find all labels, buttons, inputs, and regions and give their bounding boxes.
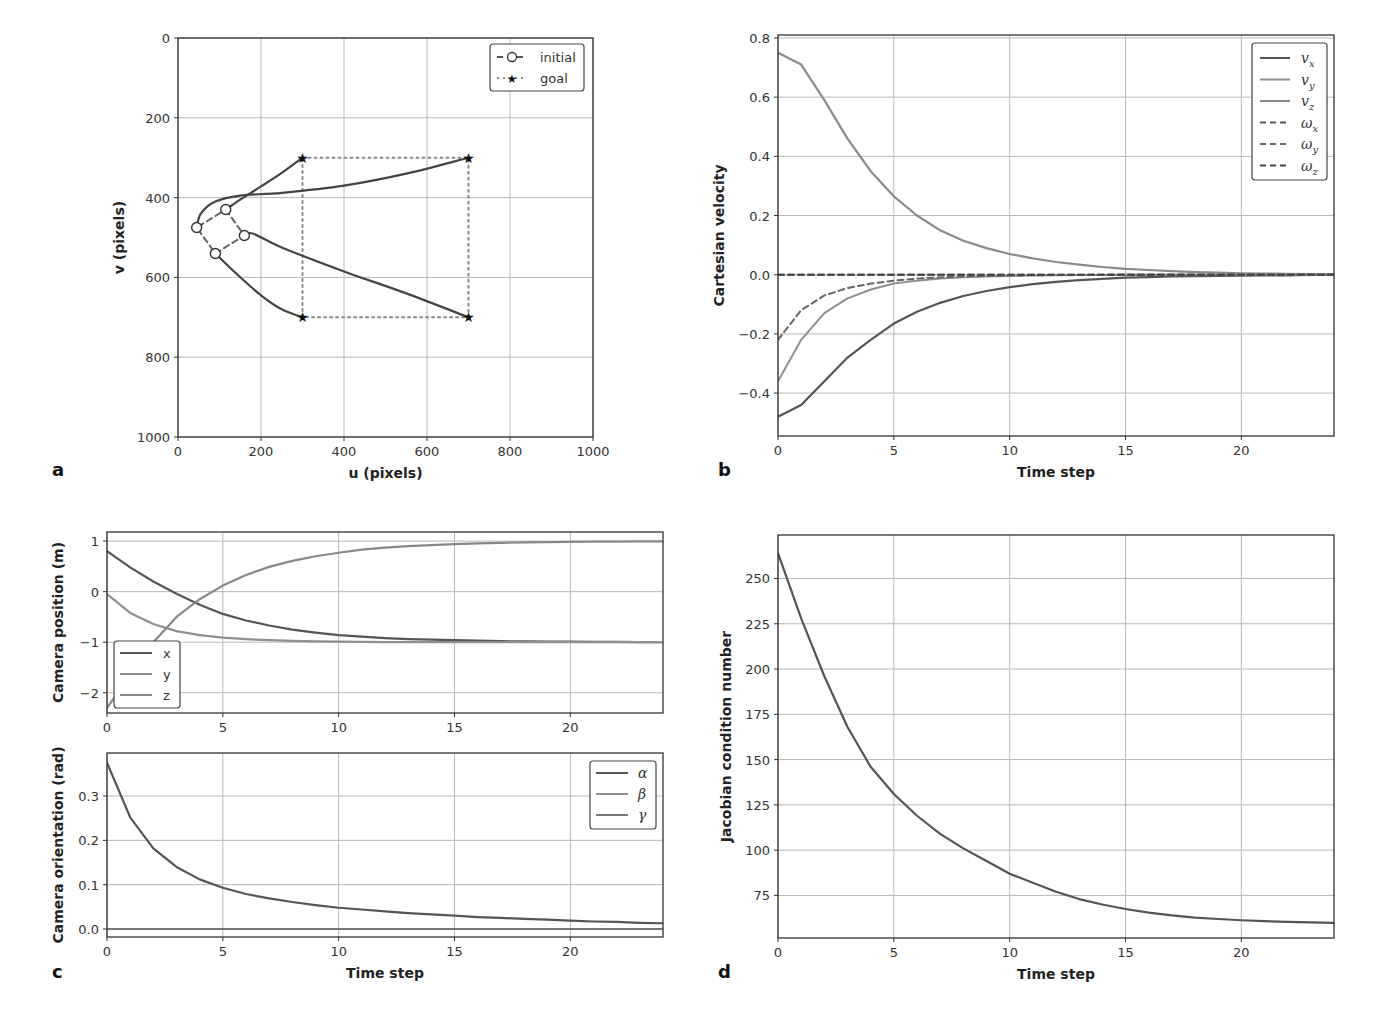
y-tick-label: 150 [745,753,770,768]
y-tick-label: 0.4 [749,149,770,164]
x-tick-label: 10 [330,944,347,959]
x-tick-label: 15 [1117,443,1134,458]
initial-point-marker [221,205,231,215]
panel-b-velocity-plot: 05101520−0.4−0.20.00.20.40.60.8Time step… [711,31,1334,480]
feature-trajectory [244,233,468,317]
y-tick-label: 0 [91,585,99,600]
plot-frame [107,753,663,937]
y-tick-label: 100 [745,843,770,858]
y-tick-label: 1 [91,534,99,549]
feature-trajectory [215,253,302,317]
panel-letter-b: b [718,459,731,480]
legend-label: β [637,786,646,802]
x-tick-label: 0 [103,944,111,959]
y-tick-label: 600 [145,270,170,285]
series-line [778,275,1334,340]
legend-label: z [163,688,170,703]
x-tick-label: 20 [1233,443,1250,458]
x-tick-label: 1000 [576,444,609,459]
x-axis-label: Time step [346,965,424,981]
panel-a-trajectory-plot: 0200400600800100002004006008001000u (pix… [111,31,610,481]
series-line [778,275,1334,382]
legend-label-goal: goal [540,71,568,86]
y-tick-label: 800 [145,350,170,365]
plot-frame [778,35,1334,436]
x-axis-label: Time step [1017,464,1095,480]
x-tick-label: 0 [103,720,111,735]
y-tick-label: 200 [145,111,170,126]
series-line [107,551,663,642]
y-tick-label: 0.6 [749,90,770,105]
goal-star-icon: ★ [296,309,309,325]
goal-star-icon: ★ [462,150,475,166]
panel-letter-c: c [52,961,63,982]
y-tick-label: 0.3 [78,789,99,804]
legend-label: α [638,765,648,781]
y-axis-label: Jacobian condition number [718,631,734,843]
series-line [107,541,663,708]
feature-trajectory [226,158,303,210]
x-tick-label: 200 [249,444,274,459]
y-axis-label: Camera orientation (rad) [50,746,66,943]
y-tick-label: −0.4 [738,386,770,401]
x-tick-label: 20 [562,944,579,959]
x-tick-label: 10 [1001,945,1018,960]
y-tick-label: 200 [745,662,770,677]
x-tick-label: 0 [174,444,182,459]
plot-frame [778,535,1334,938]
y-tick-label: 0 [162,31,170,46]
x-tick-label: 5 [219,944,227,959]
legend-goal-star-icon: ★ [507,72,518,86]
legend-label-initial: initial [540,50,576,65]
initial-point-marker [192,223,202,233]
y-tick-label: 1000 [137,430,170,445]
feature-trajectory [197,158,469,228]
panel-letter-d: d [718,961,731,982]
y-axis-label: v (pixels) [111,201,127,274]
y-tick-label: 175 [745,707,770,722]
legend-box [1252,43,1327,180]
x-axis-label: u (pixels) [348,465,422,481]
x-axis-label: Time step [1017,966,1095,982]
x-tick-label: 5 [219,720,227,735]
legend-initial-marker [508,53,517,62]
y-tick-label: 0.2 [78,833,99,848]
initial-point-marker [210,248,220,258]
panel-c-position-plot: 05101520−2−101Camera position (m)xyz [50,532,663,735]
y-tick-label: 0.8 [749,31,770,46]
goal-star-icon: ★ [462,309,475,325]
x-tick-label: 600 [415,444,440,459]
y-tick-label: 75 [753,888,770,903]
x-tick-label: 15 [446,944,463,959]
goal-square [303,158,469,318]
y-tick-label: −2 [80,686,99,701]
x-tick-label: 800 [498,444,523,459]
y-tick-label: 0.0 [749,268,770,283]
initial-quad [197,210,245,254]
x-tick-label: 15 [446,720,463,735]
y-tick-label: 0.0 [78,922,99,937]
legend-label: x [163,646,171,661]
x-tick-label: 0 [774,945,782,960]
x-tick-label: 5 [890,443,898,458]
goal-star-icon: ★ [296,150,309,166]
series-line [107,763,663,924]
figure-canvas: 0200400600800100002004006008001000u (pix… [0,0,1373,1017]
initial-point-marker [239,231,249,241]
y-tick-label: 0.1 [78,878,99,893]
y-tick-label: 125 [745,798,770,813]
y-tick-label: 250 [745,571,770,586]
x-tick-label: 0 [774,443,782,458]
x-tick-label: 5 [890,945,898,960]
plot-frame [107,532,663,713]
series-line [778,53,1334,274]
y-tick-label: 0.2 [749,209,770,224]
x-tick-label: 10 [1001,443,1018,458]
panel-d-condition-number-plot: 0510152075100125150175200225250Time step… [718,535,1334,982]
y-tick-label: 225 [745,617,770,632]
x-tick-label: 10 [330,720,347,735]
y-tick-label: 400 [145,191,170,206]
y-axis-label: Camera position (m) [50,542,66,703]
y-axis-label: Cartesian velocity [711,164,727,306]
y-tick-label: −1 [80,635,99,650]
